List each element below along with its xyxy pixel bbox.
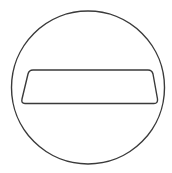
outer-circle — [12, 11, 165, 164]
no-entry-icon — [0, 0, 172, 173]
no-entry-sign-svg — [0, 0, 172, 173]
horizontal-bar — [22, 70, 158, 104]
